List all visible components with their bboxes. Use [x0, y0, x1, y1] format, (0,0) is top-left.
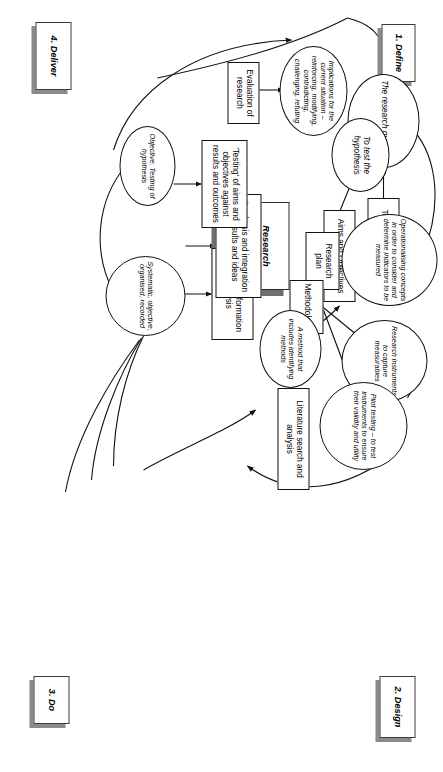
- node-implications[interactable]: Implications for the current situation –…: [279, 46, 347, 136]
- node-systematic[interactable]: Systematic, objective, organised, record…: [105, 256, 185, 336]
- node-testing-aims[interactable]: 'Testing' of aims and objectives against…: [201, 140, 247, 228]
- node-literature-search[interactable]: Literature search and analysis: [277, 388, 309, 490]
- node-method-identifying[interactable]: A method that includes identifying metho…: [259, 310, 321, 388]
- diagram-canvas: 1. Define 2. Design 3. Do 4. Deliver Res…: [0, 0, 443, 772]
- node-operationalising[interactable]: Operationalising concepts in order to co…: [341, 214, 437, 306]
- node-pilot-testing[interactable]: Pilot testing – to test instruments to e…: [319, 382, 407, 470]
- arc-do-into-literature: [143, 410, 255, 470]
- diagram-stage: 1. Define 2. Design 3. Do 4. Deliver Res…: [0, 0, 443, 772]
- phase-card-design[interactable]: 2. Design: [379, 676, 415, 738]
- node-test-hypothesis[interactable]: To test the hypothesis: [331, 118, 389, 192]
- node-evaluation[interactable]: Evaluation of research: [227, 62, 259, 124]
- phase-card-do[interactable]: 3. Do: [33, 676, 69, 724]
- phase-card-deliver[interactable]: 4. Deliver: [35, 22, 71, 90]
- node-objective-testing[interactable]: Objective: Testing of hypothesis: [119, 126, 175, 206]
- arc-define-outer-2: [347, 18, 381, 44]
